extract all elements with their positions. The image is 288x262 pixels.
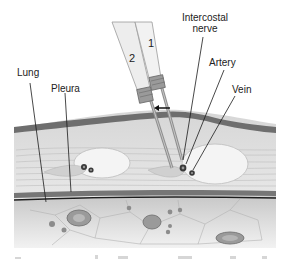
- label-lung: Lung: [17, 67, 39, 78]
- intercostal-nerve-block-diagram: 2 1 Lung Pleura Intercostal nerve Artery…: [0, 0, 288, 262]
- label-intercostal-nerve-line1: Intercostal: [180, 12, 230, 23]
- faint-caption-marks: [15, 255, 267, 259]
- needle-2-hub: [137, 87, 154, 104]
- label-artery: Artery: [209, 57, 236, 68]
- needle-1-hub: [149, 75, 165, 91]
- anatomy-illustration: [0, 0, 288, 262]
- label-intercostal-nerve-line2: nerve: [180, 23, 230, 34]
- label-intercostal-nerve: Intercostal nerve: [180, 12, 230, 34]
- label-pleura: Pleura: [51, 83, 80, 94]
- lung-vessel: [143, 215, 161, 229]
- needle-1-label: 1: [148, 37, 154, 49]
- label-vein: Vein: [232, 84, 251, 95]
- rib-left: [74, 148, 130, 178]
- needle-2-label: 2: [129, 52, 135, 64]
